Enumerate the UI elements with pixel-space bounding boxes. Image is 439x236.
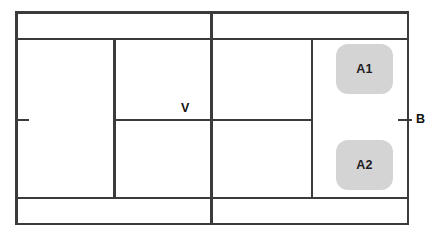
label-b: B — [416, 112, 425, 126]
left-boundary-tick-marker — [17, 119, 29, 122]
short-service-line-right — [311, 38, 314, 199]
zone-a2: A2 — [336, 140, 393, 190]
short-service-line-left — [113, 38, 116, 199]
court-diagram: A1 A2 V B — [0, 0, 439, 236]
right-boundary-tick-marker — [398, 119, 412, 122]
center-net-line — [210, 11, 213, 225]
center-service-divider-line — [114, 119, 313, 122]
zone-a1: A1 — [336, 44, 393, 94]
label-v: V — [181, 101, 189, 115]
